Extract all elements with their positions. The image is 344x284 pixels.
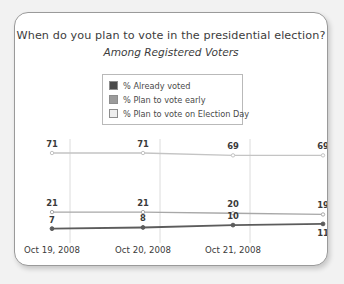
series-2-point-2[interactable] <box>231 223 235 227</box>
screenshot-root: When do you plan to vote in the presiden… <box>0 0 344 284</box>
x-tick-label-1: Oct 20, 2008 <box>115 245 171 255</box>
value-label-s1-p0: 21 <box>46 198 58 208</box>
series-2-point-3[interactable] <box>321 222 325 226</box>
page-title: When do you plan to vote in the presiden… <box>15 29 327 42</box>
page-subtitle: Among Registered Voters <box>15 46 327 58</box>
value-label-s0-p0: 71 <box>46 139 58 149</box>
series-1-point-0[interactable] <box>50 210 53 213</box>
series-line-0 <box>52 153 323 155</box>
legend-item-vote-election-day[interactable]: % Plan to vote on Election Day <box>109 107 236 120</box>
legend-label-already-voted: % Already voted <box>123 81 190 91</box>
value-label-s2-p3: 11 <box>317 228 328 238</box>
legend-label-vote-early: % Plan to vote early <box>123 95 205 105</box>
series-line-1 <box>52 212 323 214</box>
x-tick-label-2: Oct 21, 2008 <box>205 245 261 255</box>
series-2-point-0[interactable] <box>50 227 54 231</box>
value-label-s1-p3: 19 <box>317 200 328 210</box>
chart-legend: % Already voted % Plan to vote early % P… <box>102 74 243 125</box>
value-label-s0-p3: 69 <box>317 141 328 151</box>
value-label-s1-p1: 21 <box>137 198 149 208</box>
chart-svg <box>15 131 327 243</box>
series-0-point-3[interactable] <box>321 154 324 157</box>
legend-label-vote-election-day: % Plan to vote on Election Day <box>123 109 249 119</box>
chart-card: When do you plan to vote in the presiden… <box>14 12 328 266</box>
value-label-s1-p2: 20 <box>227 199 239 209</box>
chart-plot-area <box>15 131 327 243</box>
value-label-s2-p1: 8 <box>140 213 146 223</box>
value-label-s0-p2: 69 <box>227 141 239 151</box>
value-label-s2-p0: 7 <box>49 215 55 225</box>
legend-item-vote-early[interactable]: % Plan to vote early <box>109 93 236 106</box>
series-2-point-1[interactable] <box>141 226 145 230</box>
series-0-point-1[interactable] <box>141 151 144 154</box>
chart-x-axis: Oct 19, 2008Oct 20, 2008Oct 21, 2008 <box>15 245 327 263</box>
legend-swatch-icon-vote-early <box>109 95 118 104</box>
x-tick-label-0: Oct 19, 2008 <box>24 245 80 255</box>
series-1-point-3[interactable] <box>321 213 324 216</box>
legend-swatch-icon-already-voted <box>109 81 118 90</box>
value-label-s0-p1: 71 <box>137 139 149 149</box>
series-0-point-2[interactable] <box>231 154 234 157</box>
legend-swatch-icon-vote-election-day <box>109 109 118 118</box>
series-0-point-0[interactable] <box>50 151 53 154</box>
series-line-2 <box>52 224 323 229</box>
legend-item-already-voted[interactable]: % Already voted <box>109 79 236 92</box>
value-label-s2-p2: 10 <box>227 211 239 221</box>
